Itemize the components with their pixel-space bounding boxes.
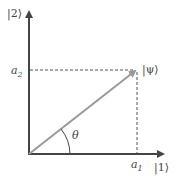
y-axis-label: |2⟩ bbox=[7, 8, 22, 19]
angle-arc bbox=[61, 129, 70, 154]
a1-sub: 1 bbox=[138, 164, 143, 173]
a2-sub: 2 bbox=[18, 70, 23, 79]
x-axis-label: |1⟩ bbox=[154, 162, 169, 173]
angle-label: θ bbox=[72, 130, 79, 141]
vector-label: |ψ⟩ bbox=[142, 64, 159, 75]
x-component-label: a1 bbox=[131, 159, 143, 173]
state-vector-diagram bbox=[0, 0, 183, 182]
y-component-label: a2 bbox=[11, 65, 23, 79]
state-vector-arrow bbox=[29, 71, 135, 154]
